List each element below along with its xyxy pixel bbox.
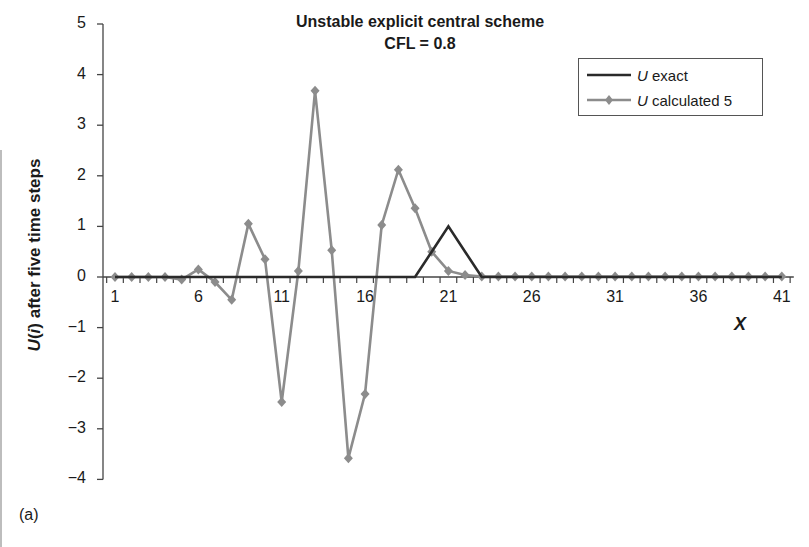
- data-point-diamond: [344, 453, 353, 463]
- legend-line-diamond-icon: [587, 94, 631, 106]
- y-label-paren: (: [25, 333, 44, 339]
- legend-item-exact: U exact: [587, 65, 688, 85]
- y-tick-label: 4: [56, 65, 86, 83]
- y-tick-label: −3: [56, 419, 86, 437]
- x-tick-label: 41: [767, 288, 797, 306]
- x-axis-label: X: [734, 314, 746, 335]
- y-label-u: U: [25, 339, 44, 351]
- data-point-diamond: [327, 245, 336, 255]
- data-point-diamond: [461, 270, 470, 280]
- legend-line-exact-icon: [587, 69, 631, 81]
- y-label-rest: ) after five time steps: [25, 159, 44, 329]
- x-tick-label: 31: [600, 288, 630, 306]
- x-tick-label: 1: [100, 288, 130, 306]
- data-point-diamond: [277, 397, 286, 407]
- legend: U exact U calculated 5: [578, 58, 763, 116]
- x-tick-label: 11: [267, 288, 297, 306]
- legend-label-calculated: U calculated 5: [637, 92, 732, 109]
- x-tick-label: 36: [683, 288, 713, 306]
- y-tick-label: 1: [56, 216, 86, 234]
- legend-label-exact: U exact: [637, 67, 688, 84]
- y-tick-label: 0: [56, 267, 86, 285]
- y-tick-label: −2: [56, 368, 86, 386]
- data-point-diamond: [411, 203, 420, 213]
- x-tick-label: 26: [517, 288, 547, 306]
- y-tick-label: 5: [56, 14, 86, 32]
- y-label-i: i: [25, 329, 44, 334]
- y-tick-label: −4: [56, 469, 86, 487]
- data-point-diamond: [261, 254, 270, 264]
- data-point-diamond: [294, 266, 303, 276]
- x-tick-label: 16: [350, 288, 380, 306]
- y-axis-label: U(i) after five time steps: [22, 130, 48, 380]
- y-tick-label: 2: [56, 166, 86, 184]
- x-tick-label: 6: [183, 288, 213, 306]
- data-point-diamond: [377, 220, 386, 230]
- y-tick-label: −1: [56, 318, 86, 336]
- data-point-diamond: [394, 165, 403, 175]
- data-point-diamond: [244, 219, 253, 229]
- panel-label: (a): [19, 506, 39, 524]
- legend-item-calculated: U calculated 5: [587, 90, 732, 110]
- data-point-diamond: [311, 86, 320, 96]
- x-tick-label: 21: [433, 288, 463, 306]
- data-point-diamond: [361, 389, 370, 399]
- y-tick-label: 3: [56, 115, 86, 133]
